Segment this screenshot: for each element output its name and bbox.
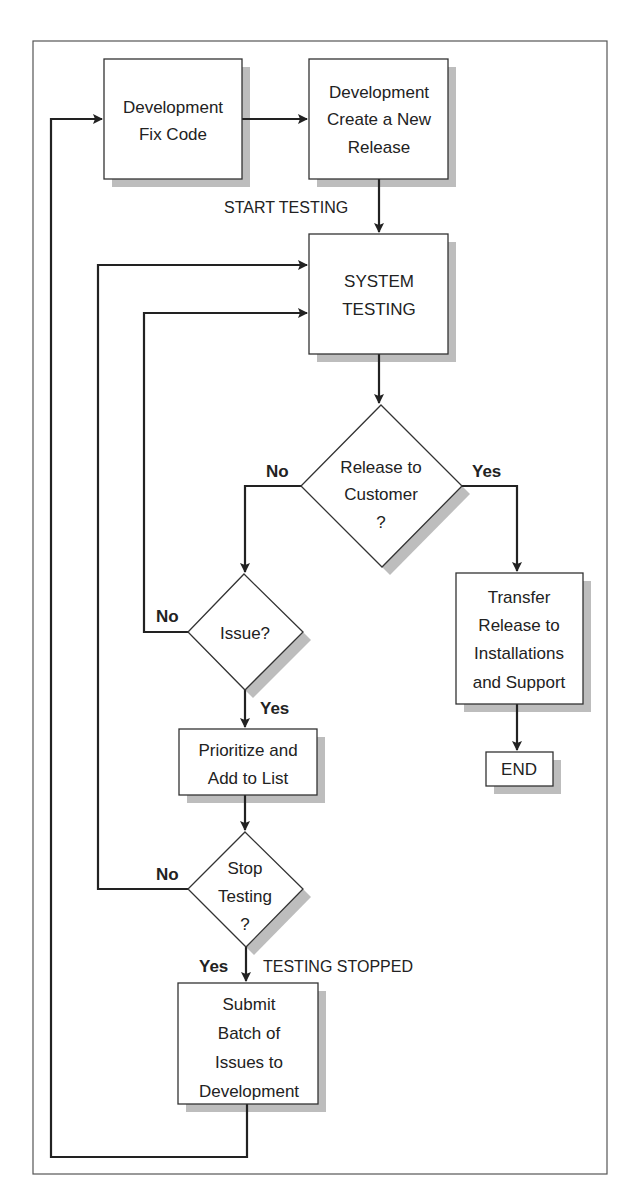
system-testing-line-1: SYSTEM xyxy=(344,272,414,291)
release-decision-line-1: Release to xyxy=(340,458,421,477)
submit-line-1: Submit xyxy=(223,995,276,1014)
fix-code-line-1: Development xyxy=(123,98,223,117)
transfer-line-4: and Support xyxy=(473,673,566,692)
new-release-line-3: Release xyxy=(348,138,410,157)
submit-line-3: Issues to xyxy=(215,1053,283,1072)
issue-label: Issue? xyxy=(220,624,270,643)
node-system-testing xyxy=(309,234,448,354)
issue-yes-label: Yes xyxy=(260,699,289,718)
prioritize-line-2: Add to List xyxy=(208,769,289,788)
transfer-line-2: Release to xyxy=(478,616,559,635)
stop-testing-line-1: Stop xyxy=(228,859,263,878)
prioritize-line-1: Prioritize and xyxy=(198,741,297,760)
transfer-line-1: Transfer xyxy=(488,588,551,607)
transfer-line-3: Installations xyxy=(474,644,564,663)
testing-stopped-label: TESTING STOPPED xyxy=(263,958,413,975)
release-yes-label: Yes xyxy=(472,462,501,481)
release-decision-line-3: ? xyxy=(376,513,385,532)
stop-yes-label: Yes xyxy=(199,957,228,976)
release-decision-line-2: Customer xyxy=(344,485,418,504)
stop-testing-line-2: Testing xyxy=(218,887,272,906)
fix-code-line-2: Fix Code xyxy=(139,125,207,144)
new-release-line-2: Create a New xyxy=(327,110,432,129)
edge-release-yes xyxy=(462,486,517,571)
new-release-line-1: Development xyxy=(329,83,429,102)
issue-no-label: No xyxy=(156,607,179,626)
system-testing-line-2: TESTING xyxy=(342,300,416,319)
submit-line-2: Batch of xyxy=(218,1024,281,1043)
edge-release-no xyxy=(245,486,301,572)
end-label: END xyxy=(501,760,537,779)
submit-line-4: Development xyxy=(199,1082,299,1101)
stop-testing-line-3: ? xyxy=(240,915,249,934)
flowchart-canvas: Development Fix Code Development Create … xyxy=(0,0,632,1196)
stop-no-label: No xyxy=(156,865,179,884)
start-testing-label: START TESTING xyxy=(224,199,348,216)
release-no-label: No xyxy=(266,462,289,481)
node-fix-code xyxy=(104,59,242,179)
